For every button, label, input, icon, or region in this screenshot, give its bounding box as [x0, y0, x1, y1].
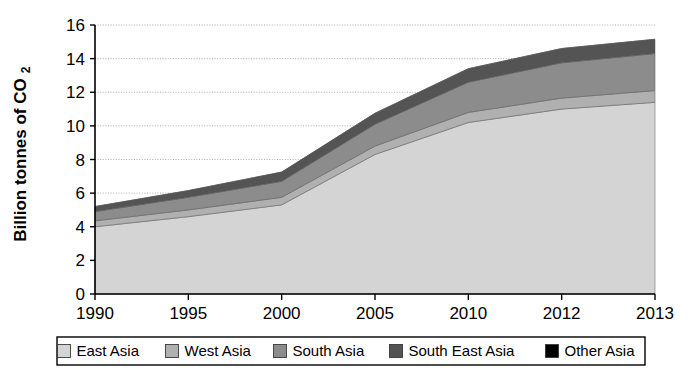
- x-tick-label: 2013: [636, 304, 674, 323]
- x-tick-label: 2012: [543, 304, 581, 323]
- legend-label-other-asia[interactable]: Other Asia: [565, 342, 636, 359]
- x-tick-label: 1990: [76, 304, 114, 323]
- chart-container: Billion tonnes of CO2 0246810121416 1990…: [0, 0, 699, 386]
- legend-swatch-south-east-asia[interactable]: [390, 345, 403, 358]
- y-tick-label: 0: [76, 285, 85, 304]
- y-tick-label: 12: [66, 83, 85, 102]
- y-tick-label: 4: [76, 218, 85, 237]
- y-axis-label: Billion tonnes of CO: [11, 78, 30, 241]
- y-tick-label: 14: [66, 50, 85, 69]
- legend-label-east-asia[interactable]: East Asia: [77, 342, 140, 359]
- legend-label-south-east-asia[interactable]: South East Asia: [409, 342, 516, 359]
- y-axis-title: Billion tonnes of CO2: [11, 66, 33, 241]
- y-tick-label: 8: [76, 151, 85, 170]
- legend-swatch-other-asia[interactable]: [546, 345, 559, 358]
- legend-label-south-asia[interactable]: South Asia: [293, 342, 365, 359]
- x-tick-label: 2005: [356, 304, 394, 323]
- x-tick-label: 2000: [263, 304, 301, 323]
- x-tick-label: 1995: [169, 304, 207, 323]
- x-tick-label: 2010: [449, 304, 487, 323]
- y-tick-label: 2: [76, 251, 85, 270]
- legend-swatch-south-asia[interactable]: [274, 345, 287, 358]
- y-tick-label: 6: [76, 184, 85, 203]
- stacked-area-chart: Billion tonnes of CO2 0246810121416 1990…: [0, 0, 699, 386]
- legend-swatch-west-asia[interactable]: [166, 345, 179, 358]
- chart-legend: East AsiaWest AsiaSouth AsiaSouth East A…: [57, 337, 645, 365]
- legend-swatch-east-asia[interactable]: [58, 345, 71, 358]
- y-axis-label-subscript: 2: [19, 66, 33, 73]
- y-tick-label: 16: [66, 16, 85, 35]
- legend-label-west-asia[interactable]: West Asia: [185, 342, 252, 359]
- y-tick-label: 10: [66, 117, 85, 136]
